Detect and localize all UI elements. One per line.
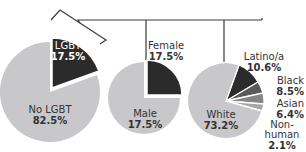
value-nonhuman: 2.1% [268,140,296,151]
label-latino: Latino/a [244,51,284,62]
value-white: 73.2% [204,120,239,131]
value-male: 17.5% [128,119,163,130]
label-lgbt: LGBT [55,40,82,51]
value-lgbt: 17.5% [51,51,86,62]
value-latino: 10.6% [247,62,282,73]
label-black: Black [277,75,304,86]
label-nonhuman-2: human [265,129,300,140]
label-asian: Asian [277,98,304,109]
pie-chart-group: LGBT 17.5% No LGBT 82.5% Female 17.5% Ma… [0,0,306,152]
value-female: 17.5% [149,51,184,62]
connector-horizontal [78,20,262,23]
slice-female [147,60,182,95]
value-no-lgbt: 82.5% [33,115,68,126]
label-no-lgbt: No LGBT [28,104,72,115]
pie-lgbt: LGBT 17.5% No LGBT 82.5% [0,38,100,142]
label-white: White [206,109,235,120]
label-male: Male [133,108,157,119]
value-black: 8.5% [276,86,304,97]
label-female: Female [148,40,184,51]
